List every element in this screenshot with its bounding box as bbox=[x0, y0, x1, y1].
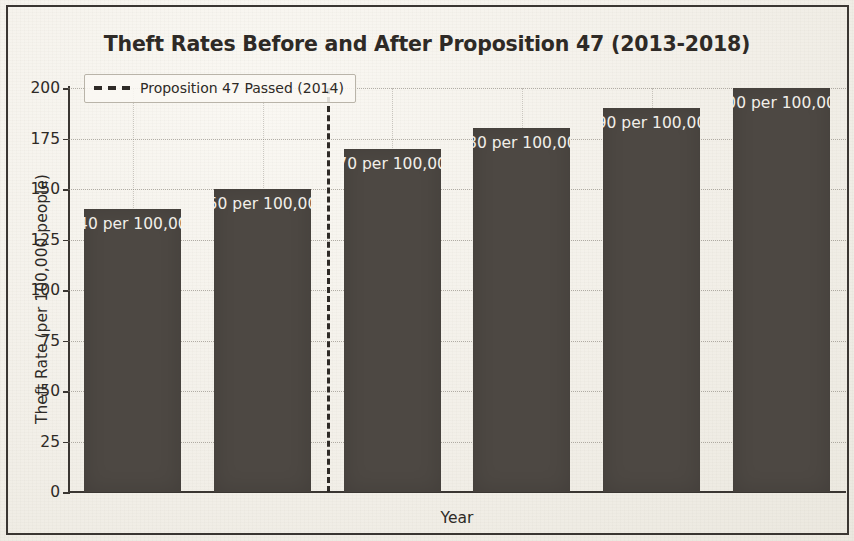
y-tick-label: 25 bbox=[0, 433, 60, 451]
gridline-horizontal bbox=[68, 341, 846, 343]
y-axis-label: Theft Rate (per 100,000 people) bbox=[33, 97, 51, 501]
y-tick-mark bbox=[63, 88, 68, 90]
y-tick-label: 100 bbox=[0, 281, 60, 299]
bar: 150 per 100,000 bbox=[214, 189, 311, 492]
y-tick-mark bbox=[63, 442, 68, 444]
y-tick-mark bbox=[63, 290, 68, 292]
y-tick-mark bbox=[63, 391, 68, 393]
bar: 170 per 100,000 bbox=[344, 149, 441, 492]
chart-page: Theft Rates Before and After Proposition… bbox=[0, 0, 854, 541]
bar: 190 per 100,000 bbox=[603, 108, 700, 492]
bar-value-label: 190 per 100,000 bbox=[603, 114, 700, 132]
chart-title: Theft Rates Before and After Proposition… bbox=[0, 32, 854, 56]
y-tick-label: 175 bbox=[0, 130, 60, 148]
bar-value-label: 200 per 100,000 bbox=[733, 94, 830, 112]
y-tick-mark bbox=[63, 189, 68, 191]
bar-190: 190 per 100,000 bbox=[603, 108, 700, 492]
bar-170: 170 per 100,000 bbox=[344, 149, 441, 492]
y-tick-mark bbox=[63, 341, 68, 343]
bar-150: 150 per 100,000 bbox=[214, 189, 311, 492]
chart-legend: Proposition 47 Passed (2014) bbox=[84, 74, 356, 103]
y-tick-label: 0 bbox=[0, 483, 60, 501]
gridline-horizontal bbox=[68, 189, 846, 191]
x-axis-label: Year bbox=[68, 509, 846, 527]
y-tick-mark bbox=[63, 492, 68, 494]
legend-dashed-line-icon bbox=[94, 86, 130, 90]
legend-label: Proposition 47 Passed (2014) bbox=[140, 80, 344, 96]
bar-180: 180 per 100,000 bbox=[473, 128, 570, 492]
bar: 200 per 100,000 bbox=[733, 88, 830, 492]
y-tick-label: 150 bbox=[0, 180, 60, 198]
y-tick-label: 75 bbox=[0, 332, 60, 350]
bar-value-label: 140 per 100,000 bbox=[84, 215, 181, 233]
proposition-47-marker-line bbox=[327, 88, 330, 492]
bar-value-label: 150 per 100,000 bbox=[214, 195, 311, 213]
gridline-horizontal bbox=[68, 442, 846, 444]
bar-value-label: 180 per 100,000 bbox=[473, 134, 570, 152]
gridline-horizontal bbox=[68, 240, 846, 242]
bar-140: 140 per 100,000 bbox=[84, 209, 181, 492]
y-tick-label: 200 bbox=[0, 79, 60, 97]
bar-200: 200 per 100,000 bbox=[733, 88, 830, 492]
gridline-horizontal bbox=[68, 391, 846, 393]
bar-value-label: 170 per 100,000 bbox=[344, 155, 441, 173]
bar: 180 per 100,000 bbox=[473, 128, 570, 492]
y-tick-mark bbox=[63, 139, 68, 141]
y-tick-label: 125 bbox=[0, 231, 60, 249]
y-tick-mark bbox=[63, 240, 68, 242]
gridline-horizontal bbox=[68, 139, 846, 141]
plot-area: 0255075100125150175200 140 per 100,00015… bbox=[68, 88, 846, 492]
bar: 140 per 100,000 bbox=[84, 209, 181, 492]
gridlines bbox=[68, 88, 846, 492]
y-tick-label: 50 bbox=[0, 382, 60, 400]
gridline-horizontal bbox=[68, 290, 846, 292]
